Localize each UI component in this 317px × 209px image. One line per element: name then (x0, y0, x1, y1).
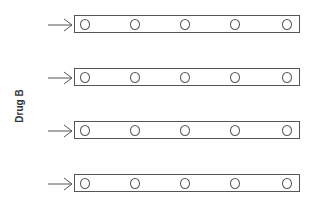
well-circle (180, 72, 190, 83)
well-circle (80, 125, 90, 136)
well-circle (180, 19, 190, 30)
well-circle (80, 19, 90, 30)
well-circle (80, 178, 90, 189)
well-circle (180, 125, 190, 136)
well-circle (130, 178, 140, 189)
well-circle (230, 19, 240, 30)
arrow-right-icon (48, 124, 74, 138)
arrow-right-icon (48, 18, 74, 32)
strip-row-4 (46, 174, 302, 194)
well-circle (180, 178, 190, 189)
well-strip (74, 68, 300, 86)
well-strip (74, 121, 300, 139)
well-circle (282, 19, 292, 30)
well-circle (230, 72, 240, 83)
well-circle (230, 178, 240, 189)
well-circle (282, 178, 292, 189)
strip-row-2 (46, 68, 302, 88)
arrow-right-icon (48, 177, 74, 191)
well-circle (230, 125, 240, 136)
strip-row-3 (46, 121, 302, 141)
well-circle (80, 72, 90, 83)
well-circle (282, 125, 292, 136)
axis-label-text: Drug B (14, 89, 25, 122)
well-circle (130, 125, 140, 136)
well-strip (74, 15, 300, 33)
well-circle (130, 19, 140, 30)
well-circle (282, 72, 292, 83)
well-strip (74, 174, 300, 192)
strip-row-1 (46, 15, 302, 35)
arrow-right-icon (48, 71, 74, 85)
well-circle (130, 72, 140, 83)
